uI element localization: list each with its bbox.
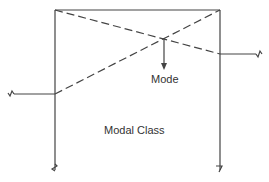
diagonal-line-2 [55, 10, 220, 94]
right-break-mark [216, 166, 222, 172]
postmodal-break-mark [256, 51, 262, 57]
mode-arrow-head [161, 63, 167, 70]
modal-class-diagram: Mode Modal Class [0, 0, 269, 182]
mode-label: Mode [151, 73, 179, 85]
modal-class-label: Modal Class [104, 124, 165, 136]
premodal-break-mark [8, 91, 14, 96]
diagonal-line-1 [55, 10, 220, 54]
